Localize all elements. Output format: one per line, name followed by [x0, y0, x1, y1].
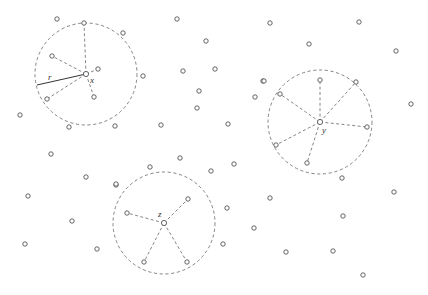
data-point	[221, 242, 225, 246]
neighbor-point	[274, 143, 278, 147]
center-point-x	[83, 71, 88, 76]
data-point	[361, 273, 365, 277]
neighbor-point	[185, 260, 189, 264]
neighbor-spoke	[320, 82, 356, 122]
neighbor-point	[50, 54, 54, 58]
neighborhood-diagram: r x y z	[0, 0, 428, 295]
center-label-z: z	[157, 209, 162, 219]
data-point	[84, 175, 88, 179]
data-point	[268, 21, 272, 25]
data-point	[253, 95, 257, 99]
data-point	[18, 113, 22, 117]
neighbor-spoke	[47, 74, 86, 99]
data-point	[70, 219, 74, 223]
data-point	[268, 196, 272, 200]
neighbor-spoke	[164, 199, 188, 223]
data-points	[18, 17, 413, 277]
data-point	[213, 67, 217, 71]
data-point	[331, 249, 335, 253]
neighbor-point	[92, 95, 96, 99]
neighbor-point	[278, 92, 282, 96]
radius-label: r	[48, 72, 52, 82]
data-point	[394, 49, 398, 53]
data-point	[95, 247, 99, 251]
data-point	[357, 20, 361, 24]
data-point	[409, 102, 413, 106]
data-point	[307, 42, 311, 46]
neighbor-point	[318, 78, 322, 82]
center-label-y: y	[321, 125, 326, 135]
neighbor-point	[186, 197, 190, 201]
data-point	[340, 176, 344, 180]
data-point	[284, 250, 288, 254]
neighbor-point	[365, 125, 369, 129]
data-point	[232, 162, 236, 166]
neighbor-point	[96, 67, 100, 71]
data-point	[141, 74, 145, 78]
neighbor-point	[142, 260, 146, 264]
neighbor-point	[82, 21, 86, 25]
data-point	[209, 169, 213, 173]
data-point	[262, 79, 266, 83]
data-point	[121, 31, 125, 35]
neighbor-spoke	[280, 94, 320, 122]
center-point-y	[317, 119, 322, 124]
data-point	[204, 39, 208, 43]
data-point	[175, 17, 179, 21]
center-label-x: x	[89, 75, 94, 85]
data-point	[148, 165, 152, 169]
center-point-z	[161, 220, 166, 225]
radius-line	[37, 74, 86, 85]
neighbor-point	[45, 97, 49, 101]
neighbor-spoke	[320, 122, 367, 127]
data-point	[341, 214, 345, 218]
data-point	[226, 122, 230, 126]
radius-line-segment	[37, 74, 86, 85]
data-point	[195, 106, 199, 110]
data-point	[197, 89, 201, 93]
neighbor-spoke	[52, 56, 86, 74]
data-point	[252, 226, 256, 230]
data-point	[49, 152, 53, 156]
neighbor-point	[354, 80, 358, 84]
neighbor-spokes	[47, 23, 367, 262]
data-point	[181, 69, 185, 73]
neighbor-spoke	[164, 223, 187, 262]
data-point	[113, 124, 117, 128]
data-point	[225, 206, 229, 210]
neighbor-point	[125, 211, 129, 215]
data-point	[23, 242, 27, 246]
neighbor-spoke	[84, 23, 86, 74]
data-point	[392, 190, 396, 194]
neighbor-spoke	[276, 122, 320, 145]
data-point	[159, 123, 163, 127]
data-point	[114, 182, 118, 186]
data-point	[55, 17, 59, 21]
data-point	[26, 194, 30, 198]
data-point	[178, 156, 182, 160]
data-point	[67, 125, 71, 129]
neighbor-spoke	[144, 223, 164, 262]
neighbor-point	[305, 161, 309, 165]
